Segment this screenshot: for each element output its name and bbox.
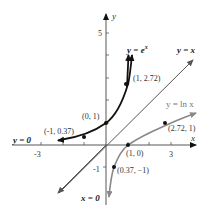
- point-label-exp-neg1: (-1, 0.37): [44, 127, 74, 136]
- ln-curve: [114, 113, 196, 167]
- point-label-ln-037: (0.37, −1): [117, 166, 149, 175]
- ln-curve-lower: [109, 167, 114, 197]
- ln-label: y = ln x: [166, 99, 194, 109]
- tick-label-5: 5: [98, 29, 102, 38]
- x-axis-label: x: [190, 133, 195, 143]
- y-zero-label: y = 0: [12, 135, 32, 145]
- exp-label: y = ex: [126, 44, 148, 55]
- tick-label-neg3: -3: [34, 150, 41, 159]
- identity-label: y = x: [176, 45, 196, 55]
- point-label-exp-0: (0, 1): [82, 112, 100, 121]
- y-axis-label: y: [111, 11, 116, 21]
- function-graph: y 5 x -3 3 -1 y = ex y = x y = ln x y = …: [0, 0, 213, 211]
- point-label-ln-1: (1, 0): [126, 149, 144, 158]
- tick-label-3: 3: [169, 150, 173, 159]
- tick-label-neg1: -1: [93, 165, 100, 174]
- point-label-exp-1: (1, 2.72): [133, 74, 161, 83]
- point-label-ln-272: (2.72, 1): [168, 124, 196, 133]
- x-zero-label: x = 0: [80, 193, 100, 203]
